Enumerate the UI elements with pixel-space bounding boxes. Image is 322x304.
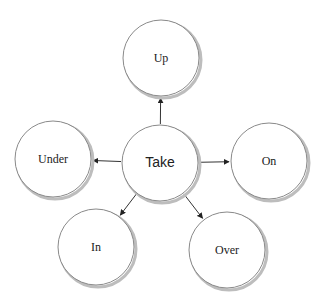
nodes: TakeUpUnderOnInOver: [15, 20, 309, 290]
node-label: Over: [215, 243, 239, 257]
node-label: In: [91, 240, 101, 254]
arrow-take-to-on: [199, 162, 229, 163]
arrow-take-to-in: [120, 194, 136, 215]
node-on: On: [231, 123, 309, 201]
node-over: Over: [189, 212, 267, 290]
node-label: On: [262, 154, 277, 168]
node-label: Under: [38, 152, 68, 166]
node-label: Up: [154, 51, 169, 65]
node-take: Take: [122, 125, 200, 203]
node-up: Up: [123, 20, 201, 98]
arrow-take-to-over: [184, 194, 203, 218]
node-label: Take: [145, 154, 175, 170]
node-under: Under: [15, 121, 93, 199]
node-in: In: [58, 209, 136, 287]
mind-map-diagram: TakeUpUnderOnInOver: [0, 0, 322, 304]
arrow-take-to-under: [93, 160, 121, 161]
